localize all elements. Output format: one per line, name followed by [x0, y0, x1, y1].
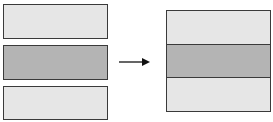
stacked-bar-middle — [166, 44, 271, 78]
left-bar-bottom — [3, 86, 108, 120]
stacked-bar-top — [166, 10, 271, 45]
left-bar-middle — [3, 45, 108, 80]
left-bar-top — [3, 4, 108, 39]
stacked-block — [166, 10, 271, 112]
stacked-bar-bottom — [166, 77, 271, 112]
right-arrow-icon — [118, 56, 152, 68]
